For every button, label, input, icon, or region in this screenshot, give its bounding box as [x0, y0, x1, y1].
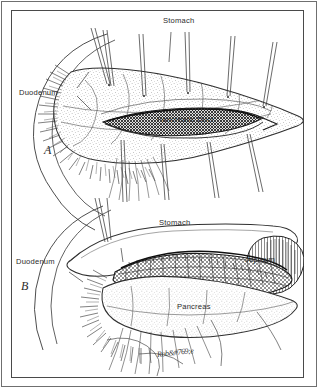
label-stomach-panel-a: Stomach [163, 17, 194, 25]
label-stomach-panel-b: Stomach [159, 219, 190, 227]
label-pancreas-panel-b: Pancreas [177, 303, 211, 311]
stay-sutures-b [95, 198, 111, 242]
label-jejunum-panel-b: Jejunum [245, 256, 275, 264]
duodenum-outline-b [34, 206, 103, 350]
line-art-svg [11, 10, 304, 378]
label-duodenum-panel-b: Duodenum [16, 258, 55, 266]
label-pancreatic-duct-panel-a: Pancreatic Duct [157, 116, 214, 124]
panel-a-artwork [33, 28, 303, 230]
illustration-canvas: Stomach Duodenum Pancreatic Duct Stomach… [11, 10, 304, 378]
figure-plate: Stomach Duodenum Pancreatic Duct Stomach… [0, 0, 320, 390]
panel-letter-a: A [44, 144, 51, 156]
label-duodenum-panel-a: Duodenum [19, 89, 58, 97]
panel-letter-b: B [21, 280, 28, 292]
